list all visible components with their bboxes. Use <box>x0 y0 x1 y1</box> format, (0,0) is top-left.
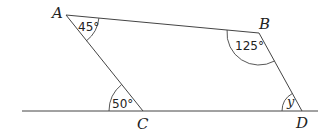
vertex-label-c: C <box>137 115 149 133</box>
angle-label-c: 50° <box>112 97 133 111</box>
vertex-label-d: D <box>295 114 308 132</box>
vertex-label-b: B <box>258 15 270 33</box>
angle-label-a: 45° <box>78 20 99 34</box>
geometry-diagram: A B C D 45° 125° 50° y <box>0 0 325 137</box>
vertex-label-a: A <box>50 4 63 22</box>
angle-label-b: 125° <box>235 39 264 53</box>
edge-bd <box>259 33 302 111</box>
angle-label-d: y <box>286 94 295 109</box>
